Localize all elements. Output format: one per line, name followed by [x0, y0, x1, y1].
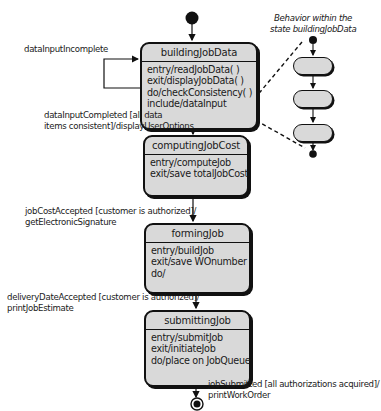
state-action: exit/save WOnumber — [151, 256, 244, 267]
state-title: submittingJob — [146, 312, 249, 330]
note-line-2: state buildingJobData — [270, 24, 356, 35]
transition-1-line-1: dataInputCompleted [all data — [44, 110, 194, 121]
transition-2-line-1: jobCostAccepted [customer is authorized]… — [25, 206, 196, 217]
state-action: entry/readJobData( ) — [147, 64, 251, 75]
state-action: entry/computeJob — [150, 157, 242, 168]
state-action: do/checkConsistency( ) — [147, 87, 251, 98]
detail-substate-3 — [293, 124, 333, 142]
state-title: formingJob — [146, 225, 249, 243]
detail-substate-2 — [293, 90, 333, 108]
state-submittingJob: submittingJob entry/submitJob exit/initi… — [144, 310, 251, 387]
state-action: entry/buildJob — [151, 245, 244, 256]
state-formingJob: formingJob entry/buildJob exit/save WOnu… — [144, 223, 251, 294]
transition-3-label: deliveryDateAccepted [customer is author… — [7, 292, 199, 313]
detail-substate-1 — [293, 57, 333, 75]
transition-4-line-2: printWorkOrder — [208, 390, 379, 401]
state-computingJobCost: computingJobCost entry/computeJob exit/s… — [143, 135, 249, 197]
state-action: do/place on JobQueue — [151, 355, 244, 366]
detail-initial-icon — [309, 36, 317, 44]
transition-2-label: jobCostAccepted [customer is authorized]… — [25, 206, 196, 227]
transition-2-line-2: getElectronicSignature — [25, 217, 196, 228]
state-action: entry/submitJob — [151, 332, 244, 343]
transition-4-label: jobSubmitted [all authorizations acquire… — [208, 379, 379, 400]
state-action: exit/displayJobData( ) — [147, 75, 251, 86]
transition-1-label: dataInputCompleted [all data items consi… — [44, 110, 194, 131]
transition-4-line-1: jobSubmitted [all authorizations acquire… — [208, 379, 379, 390]
transition-self-loop-label: dataInputIncomplete — [24, 44, 108, 55]
transition-3-line-1: deliveryDateAccepted [customer is author… — [7, 292, 199, 303]
transition-1-line-2: items consistent]/displayUserOptions — [44, 121, 194, 132]
state-action: exit/save totalJobCost — [150, 168, 242, 179]
state-title: buildingJobData — [142, 44, 256, 62]
transition-3-line-2: printJobEstimate — [7, 303, 199, 314]
note-line-1: Behavior within the — [274, 13, 356, 24]
detail-note: Behavior within the state buildingJobDat… — [274, 13, 356, 34]
state-action: include/dataInput — [147, 98, 251, 109]
state-title: computingJobCost — [145, 137, 247, 155]
detail-final-icon — [309, 150, 317, 158]
state-action: exit/initiateJob — [151, 343, 244, 354]
initial-state-icon — [186, 12, 199, 25]
state-action: do/ — [151, 268, 244, 279]
